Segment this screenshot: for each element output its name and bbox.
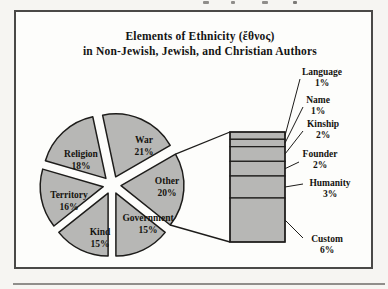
scanned-figure-page: Elements of Ethnicity (ἔθνος) in Non-Jew… [0,0,388,289]
bar-segment-custom [230,198,285,242]
bar-segment-kinship [230,147,285,162]
pie-label-kind: Kind [90,227,111,237]
bar-segment-language [230,132,285,139]
pie-label-government: Government [122,213,174,223]
bar-label-humanity: Humanity [309,178,350,188]
bar-label-founder: Founder [303,149,339,159]
bar-label-language: Language [302,67,342,77]
bar-segment-name [230,139,285,146]
bar-label-custom: Custom [311,234,343,244]
funnel-line-top [176,132,231,154]
bar-of-pie-chart: War21%Other20%Government15%Kind15%Territ… [0,0,388,289]
pie-value-government: 15% [139,225,158,235]
bar-value-name: 1% [311,106,325,116]
funnel-line-bottom [170,225,230,242]
bar-value-custom: 6% [320,245,334,255]
leader-line-custom [285,220,303,238]
bar-value-kinship: 2% [316,130,330,140]
bar-segment-founder [230,161,285,176]
bar-segment-humanity [230,176,285,198]
leader-line-founder [285,162,299,169]
leader-line-kinship [285,131,303,154]
pie-label-territory: Territory [50,190,88,200]
pie-value-religion: 18% [72,161,91,171]
bar-value-language: 1% [315,78,329,88]
pie-label-religion: Religion [64,149,98,159]
pie-value-war: 21% [135,147,154,157]
page-bottom-rule [13,283,385,285]
bar-label-name: Name [306,95,330,105]
pie-value-territory: 16% [60,202,79,212]
bar-label-kinship: Kinship [307,119,339,129]
bar-value-humanity: 3% [323,189,337,199]
pie-label-war: War [135,135,154,145]
pie-value-other: 20% [158,188,177,198]
leader-line-humanity [285,184,303,187]
pie-label-other: Other [155,176,180,186]
bar-value-founder: 2% [313,160,327,170]
pie-value-kind: 15% [91,239,110,249]
